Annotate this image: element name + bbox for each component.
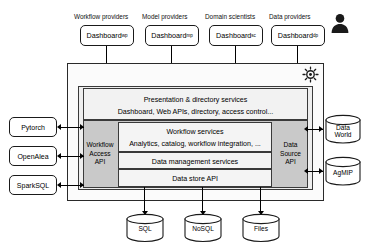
dashboard-label: Dashboard [151, 31, 186, 40]
connector-nosql [202, 187, 203, 213]
workflow-access-api-column[interactable]: Workflow Access API [84, 121, 116, 187]
workflow-access-api-line3: API [95, 158, 106, 167]
data-store-api-title: Data store API [119, 175, 271, 183]
arrowhead-sql [142, 211, 148, 215]
dashboard-subscript: sc [251, 33, 256, 38]
workflow-services-box: Workflow services Analytics, catalog, wo… [118, 122, 272, 152]
presentation-directory-services-block: Presentation & directory services Dashbo… [83, 88, 308, 120]
arrowhead-agmip-right [319, 168, 323, 174]
dashboard-label: Dashboard [278, 31, 313, 40]
tool-openalea[interactable]: OpenAlea [9, 146, 57, 166]
data-source-agmip[interactable]: AgMIP [324, 156, 362, 190]
dashboard-data-providers[interactable]: Dashboarddp [271, 25, 325, 46]
connector-files [260, 187, 261, 213]
arrowhead-data-world-right [319, 126, 323, 132]
presentation-detail: Dashboard, Web APIs, directory, access c… [84, 108, 307, 116]
workflow-services-title: Workflow services [119, 128, 271, 136]
arrowhead-files [258, 211, 264, 215]
arrowhead-nosql [200, 211, 206, 215]
arrowhead-pytorch-left [57, 124, 61, 130]
dashboard-subscript: mp [186, 33, 192, 38]
dashboard-model-providers[interactable]: Dashboardmp [145, 25, 199, 46]
data-management-services-title: Data management services [119, 158, 271, 166]
dashboard-label: Dashboard [86, 31, 121, 40]
workflow-services-detail: Analytics, catalog, workflow integration… [119, 140, 271, 148]
arrowhead-sparksql-left [57, 182, 61, 188]
dashboard-workflow-providers[interactable]: Dashboardwp [80, 25, 134, 46]
data-store-api-box: Data store API [118, 169, 272, 187]
provider-caption-data: Data providers [269, 13, 311, 20]
arrowhead-agmip-left [304, 168, 308, 174]
data-source-api-line2: Source [280, 150, 301, 159]
tool-pytorch[interactable]: Pytorch [9, 117, 57, 137]
workflow-access-api-line2: Access [89, 150, 110, 159]
arrowhead-openalea-right [80, 153, 84, 159]
data-management-services-box: Data management services [118, 152, 272, 169]
store-nosql[interactable]: NoSQL [183, 213, 223, 247]
arrowhead-openalea-left [57, 153, 61, 159]
connector-sql [144, 187, 145, 213]
presentation-title: Presentation & directory services [84, 96, 307, 104]
arrowhead-data-world-left [304, 126, 308, 132]
arrowhead-sparksql-right [80, 182, 84, 188]
provider-caption-workflow: Workflow providers [74, 13, 128, 20]
tool-sparksql[interactable]: SparkSQL [9, 175, 57, 195]
tool-sparksql-label: SparkSQL [17, 182, 49, 189]
provider-caption-model: Model providers [142, 13, 187, 20]
provider-caption-domain: Domain scientists [205, 13, 255, 20]
workflow-access-api-line1: Workflow [87, 141, 114, 150]
architecture-diagram: Workflow providers Model providers Domai… [0, 0, 367, 251]
tool-openalea-label: OpenAlea [17, 153, 48, 160]
dashboard-subscript: dp [313, 33, 318, 38]
data-source-data-world[interactable]: Data World [324, 114, 362, 148]
tool-pytorch-label: Pytorch [21, 124, 45, 131]
dashboard-label: Dashboard [216, 31, 251, 40]
data-source-api-line1: Data [284, 141, 298, 150]
store-sql[interactable]: SQL [125, 213, 165, 247]
gear-icon[interactable] [302, 66, 319, 87]
data-source-api-line3: API [285, 158, 296, 167]
data-source-api-column[interactable]: Data Source API [274, 121, 307, 187]
dashboard-subscript: wp [122, 33, 128, 38]
person-icon [329, 12, 351, 38]
dashboard-domain-scientists[interactable]: Dashboardsc [209, 25, 263, 46]
arrowhead-pytorch-right [80, 124, 84, 130]
store-files[interactable]: Files [241, 213, 281, 247]
